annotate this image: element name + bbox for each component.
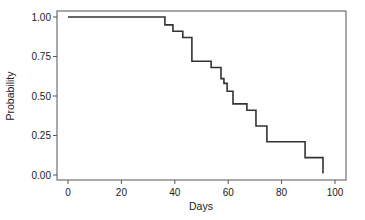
- x-axis-label: Days: [189, 200, 213, 212]
- x-tick-label: 60: [223, 187, 235, 198]
- y-tick-label: 1.00: [32, 12, 52, 23]
- x-axis: 020406080100: [65, 180, 344, 198]
- chart-canvas: 0.000.250.500.751.00 020406080100 Days P…: [0, 0, 365, 220]
- x-tick-label: 20: [116, 187, 128, 198]
- y-axis: 0.000.250.500.751.00: [32, 12, 57, 181]
- x-tick-label: 100: [327, 187, 344, 198]
- survival-step-line: [68, 17, 323, 173]
- survival-chart: 0.000.250.500.751.00 020406080100 Days P…: [0, 0, 365, 220]
- x-tick-label: 80: [276, 187, 288, 198]
- x-tick-label: 40: [169, 187, 181, 198]
- y-tick-label: 0.75: [32, 51, 52, 62]
- y-tick-label: 0.50: [32, 91, 52, 102]
- y-tick-label: 0.00: [32, 170, 52, 181]
- y-tick-label: 0.25: [32, 130, 52, 141]
- x-tick-label: 0: [65, 187, 71, 198]
- y-axis-label: Probability: [4, 71, 16, 121]
- plot-frame: [57, 11, 346, 180]
